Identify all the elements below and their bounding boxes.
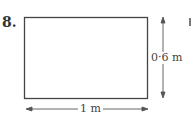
- rectangle: [25, 18, 148, 99]
- width-label: 1 m: [78, 103, 103, 115]
- height-label: 0·6 m: [151, 52, 182, 64]
- edge-mark: [189, 18, 191, 26]
